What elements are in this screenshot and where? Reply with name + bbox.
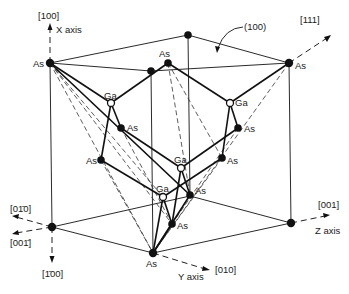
- as-atom: [287, 219, 295, 227]
- atom-labels: As As As As As As As As As As Ga Ga Ga G…: [33, 48, 306, 269]
- as-atom: [168, 220, 176, 228]
- as-label: As: [159, 48, 170, 59]
- plane-100-indicator: (100): [215, 21, 266, 53]
- as-atom: [184, 31, 192, 39]
- as-atom: [164, 59, 172, 67]
- plane-label: (100): [244, 21, 266, 32]
- axis-labels: [100] X axis [111] [01̄0] [001̄] [1̄00] …: [10, 10, 341, 282]
- ga-atom: [160, 194, 167, 201]
- as-atom: [234, 124, 242, 132]
- as-label: As: [33, 58, 44, 69]
- as-atom: [46, 59, 54, 67]
- as-label: As: [177, 220, 188, 231]
- as-label: As: [195, 185, 206, 196]
- as-label: As: [227, 155, 238, 166]
- as-atom: [149, 249, 157, 257]
- as-label: As: [146, 258, 157, 269]
- z-direction-label: [001]: [318, 199, 339, 210]
- gaas-unit-cell-diagram: (100) As As As As As As As As As As Ga: [0, 0, 349, 294]
- ga-atoms: [108, 100, 234, 201]
- as-atom: [48, 223, 56, 231]
- neg-x-direction-label: [1̄00]: [42, 268, 63, 279]
- as-atom: [117, 124, 125, 132]
- ga-label: Ga: [104, 90, 117, 101]
- as-atom: [147, 67, 155, 75]
- ga-label: Ga: [174, 154, 187, 165]
- ga-atom: [227, 100, 234, 107]
- x-axis-label: X axis: [56, 24, 82, 35]
- neg-z-direction-label: [001̄]: [10, 237, 31, 248]
- as-atom: [97, 156, 105, 164]
- neg-y-direction-label: [01̄0]: [10, 203, 31, 214]
- as-label: As: [86, 155, 97, 166]
- ga-label: Ga: [156, 183, 169, 194]
- y-direction-label: [010]: [215, 264, 236, 275]
- as-atom: [218, 154, 226, 162]
- y-axis-label: Y axis: [178, 271, 204, 282]
- as-atom: [186, 191, 194, 199]
- z-axis-label: Z axis: [315, 225, 341, 236]
- as-label: As: [295, 60, 306, 71]
- diag-direction-label: [111]: [300, 14, 320, 25]
- as-atom: [285, 59, 293, 67]
- as-label: As: [127, 122, 138, 133]
- ga-label: Ga: [235, 97, 248, 108]
- as-label: As: [244, 123, 255, 134]
- axes: [12, 23, 331, 271]
- ga-atom: [178, 165, 185, 172]
- x-direction-label: [100]: [38, 10, 59, 21]
